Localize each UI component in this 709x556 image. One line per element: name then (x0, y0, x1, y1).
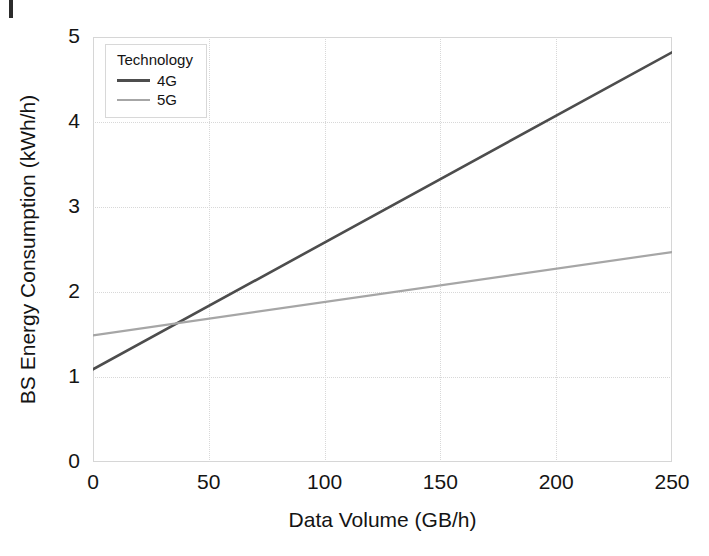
y-tick-label: 3 (0, 194, 80, 218)
legend-title: Technology (117, 51, 193, 68)
legend: Technology 4G5G (105, 44, 207, 118)
legend-label: 5G (157, 92, 177, 107)
y-axis-title: BS Energy Consumption (kWh/h) (16, 37, 40, 462)
legend-line-swatch (117, 99, 150, 101)
x-axis-title: Data Volume (GB/h) (93, 508, 672, 532)
y-tick-label: 2 (0, 279, 80, 303)
x-tick-label: 0 (53, 470, 133, 494)
line-chart-figure: 543210 050100150200250 Data Volume (GB/h… (0, 0, 709, 556)
series-line-5g (93, 252, 672, 335)
x-tick-label: 150 (400, 470, 480, 494)
y-tick-label: 4 (0, 109, 80, 133)
x-tick-label: 50 (169, 470, 249, 494)
y-tick-label: 1 (0, 364, 80, 388)
legend-label: 4G (157, 73, 177, 88)
y-tick-label: 5 (0, 24, 80, 48)
legend-entry-5g: 5G (117, 90, 193, 109)
legend-line-swatch (117, 79, 150, 82)
x-tick-label: 250 (632, 470, 709, 494)
x-tick-label: 100 (285, 470, 365, 494)
x-tick-label: 200 (516, 470, 596, 494)
legend-entry-4g: 4G (117, 71, 193, 90)
legend-entries: 4G5G (117, 71, 193, 109)
